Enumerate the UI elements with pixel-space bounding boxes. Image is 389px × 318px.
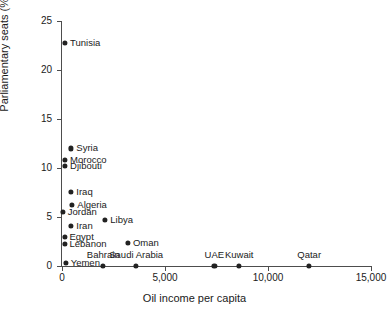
data-point-label: Saudi Arabia xyxy=(109,250,163,260)
data-point-label: Oman xyxy=(133,238,159,248)
y-tick-mark xyxy=(57,168,61,169)
x-axis-title: Oil income per capita xyxy=(0,292,389,304)
data-point xyxy=(237,263,242,268)
y-tick-label: 5 xyxy=(26,212,52,222)
data-point-label: Libya xyxy=(110,215,133,225)
plot-area xyxy=(62,21,371,266)
x-tick-label: 0 xyxy=(59,273,65,283)
y-tick-label: 0 xyxy=(26,261,52,271)
data-point-label: Iran xyxy=(76,221,92,231)
y-tick-label: 25 xyxy=(26,16,52,26)
y-tick-label: 20 xyxy=(26,65,52,75)
scatter-plot-figure: 0510152025 05,00010,00015,000 Parliament… xyxy=(0,0,389,318)
data-point xyxy=(212,263,217,268)
figure-caption xyxy=(0,309,389,318)
data-point-label: Iraq xyxy=(76,187,92,197)
data-point-label: Jordan xyxy=(68,207,97,217)
data-point-label: UAE xyxy=(205,250,225,260)
y-axis-title: Parliamentary seats (%) xyxy=(0,0,10,143)
data-point xyxy=(101,263,106,268)
x-tick-mark xyxy=(62,267,63,271)
y-tick-mark xyxy=(57,70,61,71)
y-tick-mark xyxy=(57,21,61,22)
y-tick-mark xyxy=(57,266,61,267)
x-tick-label: 10,000 xyxy=(253,273,284,283)
x-tick-label: 15,000 xyxy=(356,273,387,283)
data-point xyxy=(134,263,139,268)
y-tick-mark xyxy=(57,119,61,120)
y-tick-label: 15 xyxy=(26,114,52,124)
data-point-label: Qatar xyxy=(297,250,321,260)
data-point-label: Syria xyxy=(76,144,98,154)
x-tick-mark xyxy=(165,267,166,271)
y-tick-mark xyxy=(57,217,61,218)
data-point-label: Kuwait xyxy=(225,250,254,260)
x-tick-mark xyxy=(371,267,372,271)
x-tick-label: 5,000 xyxy=(152,273,177,283)
y-tick-label: 10 xyxy=(26,163,52,173)
data-point xyxy=(307,263,312,268)
data-point-label: Lebanon xyxy=(70,239,107,249)
x-tick-mark xyxy=(268,267,269,271)
data-point-label: Djibouti xyxy=(70,161,102,171)
data-point-label: Tunisia xyxy=(70,38,100,48)
